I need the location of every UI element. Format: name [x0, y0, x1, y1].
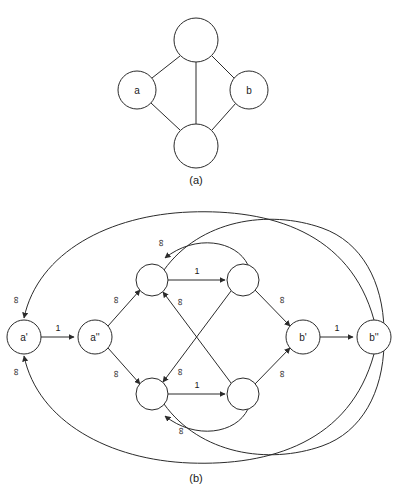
edge-label-n4-n1: ∞	[174, 298, 185, 305]
node-a-prime-label: a'	[20, 332, 28, 343]
node-b-prime-label: b'	[299, 332, 307, 343]
graph-a-nodes: a b	[118, 18, 268, 168]
edge-a-bottom	[151, 103, 180, 130]
node-a-top[interactable]	[174, 18, 218, 62]
edge-label-a1-a2: 1	[55, 323, 60, 333]
edge-label-n2-n3: ∞	[174, 368, 185, 375]
caption-b: (b)	[189, 472, 202, 484]
node-a-right-label: b	[246, 85, 252, 96]
edge-label-n2-b1: ∞	[276, 296, 287, 303]
edge-top-b	[212, 56, 234, 78]
figure-container: a b (a)	[0, 0, 399, 493]
node-lower-left[interactable]	[136, 378, 168, 410]
figure-svg: a b (a)	[0, 0, 399, 493]
node-upper-left[interactable]	[136, 264, 168, 296]
edge-a2-n1	[108, 290, 140, 326]
node-a-bottom[interactable]	[174, 124, 218, 168]
caption-a: (a)	[189, 174, 202, 186]
edge-label-n4-b1: ∞	[276, 370, 287, 377]
edge-label-n4-n3-arc: ∞	[175, 427, 186, 434]
edge-label-a2-n3: ∞	[110, 370, 121, 377]
edge-label-n3-n4: 1	[194, 380, 199, 390]
edge-top-a	[152, 56, 180, 78]
node-upper-right[interactable]	[227, 264, 259, 296]
edge-label-n2-n1-arc: ∞	[155, 239, 166, 246]
graph-a-edges	[151, 56, 236, 130]
edge-label-b2-a1-bottom: ∞	[10, 368, 21, 375]
edge-n3-b2-bottom	[164, 344, 384, 455]
graph-a: a b (a)	[118, 18, 268, 186]
edge-n4-b1	[255, 348, 290, 384]
node-a-double-prime-label: a''	[90, 332, 99, 343]
node-a-left-label: a	[134, 85, 140, 96]
edge-label-b2-a1-top: ∞	[10, 296, 21, 303]
node-b-double-prime-label: b''	[369, 332, 378, 343]
node-lower-right[interactable]	[227, 378, 259, 410]
edge-n2-b1	[255, 290, 290, 326]
edge-a2-n3	[108, 348, 140, 384]
edge-b-bottom	[212, 103, 236, 130]
edge-b2-a1-bottom	[24, 354, 374, 463]
graph-b: a' a'' b' b'' 1 1 1 1 ∞ ∞ ∞ ∞ ∞ ∞ ∞ ∞ ∞ …	[7, 212, 391, 484]
edge-label-b1-b2: 1	[334, 323, 339, 333]
edge-label-a2-n1: ∞	[110, 296, 121, 303]
edge-label-n1-n2: 1	[194, 266, 199, 276]
